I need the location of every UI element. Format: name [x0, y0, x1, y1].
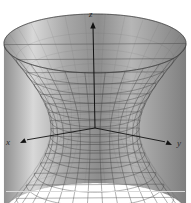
- hyperboloid-surface-plot: [0, 0, 191, 203]
- bottom-rule: [6, 191, 185, 192]
- hyperboloid-figure: z x y: [0, 0, 191, 203]
- z-axis-label: z: [89, 10, 93, 19]
- mesh-line: [16, 197, 174, 203]
- x-axis-label: x: [6, 138, 10, 147]
- y-axis-label: y: [177, 139, 181, 148]
